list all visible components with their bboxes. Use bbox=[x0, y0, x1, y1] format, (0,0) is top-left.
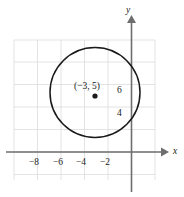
y-tick-label-6: 6 bbox=[117, 86, 122, 96]
coordinate-plane-svg bbox=[0, 0, 184, 197]
circle-graph bbox=[50, 48, 140, 138]
y-axis bbox=[127, 15, 136, 192]
x-tick-label-neg2: −2 bbox=[100, 158, 110, 168]
x-tick-label-neg6: −6 bbox=[53, 158, 63, 168]
y-axis-label: y bbox=[126, 6, 130, 16]
center-point-marker bbox=[92, 93, 97, 98]
x-tick-label-neg4: −4 bbox=[76, 158, 86, 168]
x-axis bbox=[6, 148, 169, 157]
y-tick-label-4: 4 bbox=[117, 109, 122, 119]
x-axis-label: x bbox=[173, 147, 177, 157]
x-tick-label-neg8: −8 bbox=[29, 158, 39, 168]
graph-figure: (−3, 5) 6 4 −8 −6 −4 −2 y x bbox=[0, 0, 184, 197]
center-point-label: (−3, 5) bbox=[74, 82, 100, 92]
